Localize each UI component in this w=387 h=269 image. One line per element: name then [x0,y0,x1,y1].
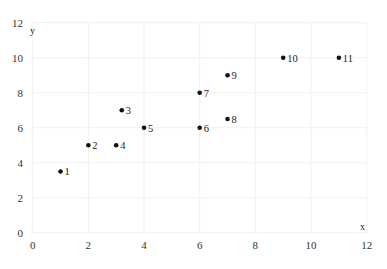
data-point: 1 [58,166,70,177]
x-tick-label: 6 [197,239,203,251]
x-tick-label: 4 [141,239,147,251]
y-axis-tick-labels: 024681012 [12,17,24,239]
x-tick-label: 2 [86,239,92,251]
data-point: 4 [114,140,126,151]
x-tick-label: 10 [306,239,318,251]
point-label: 2 [92,140,97,151]
y-tick-label: 12 [12,17,23,29]
point-marker [197,125,202,130]
x-tick-label: 0 [30,239,36,251]
point-marker [142,125,147,130]
point-marker [86,143,91,148]
data-point: 3 [119,105,131,116]
data-point: 5 [142,123,154,134]
point-marker [225,117,230,122]
y-tick-label: 8 [18,87,24,99]
y-tick-label: 6 [18,122,24,134]
point-label: 6 [204,123,209,134]
point-marker [337,55,342,60]
data-point: 7 [197,88,209,99]
data-point: 11 [337,53,353,64]
point-marker [114,143,119,148]
point-marker [119,108,124,113]
x-tick-label: 12 [361,239,372,251]
data-point: 6 [197,123,209,134]
data-point: 8 [225,114,237,125]
y-tick-label: 2 [18,192,24,204]
data-points: 1234567891011 [58,53,353,178]
point-label: 10 [287,53,298,64]
y-tick-label: 4 [18,157,24,169]
point-label: 1 [65,166,70,177]
point-label: 7 [204,88,209,99]
point-marker [281,55,286,60]
point-marker [197,90,202,95]
chart-canvas: 024681012 024681012 x y 1234567891011 [0,0,387,269]
point-marker [58,169,63,174]
x-axis-title: x [360,221,365,232]
point-label: 9 [232,70,237,81]
y-axis-title: y [30,25,35,36]
scatter-chart: 024681012 024681012 x y 1234567891011 [0,0,387,269]
x-tick-label: 8 [253,239,259,251]
point-label: 3 [126,105,131,116]
data-point: 10 [281,53,298,64]
point-label: 5 [148,123,153,134]
y-tick-label: 10 [12,52,24,64]
point-marker [225,73,230,78]
y-tick-label: 0 [18,227,24,239]
point-label: 8 [232,114,237,125]
point-label: 4 [120,140,126,151]
point-label: 11 [343,53,353,64]
x-axis-tick-labels: 024681012 [30,239,372,251]
data-point: 2 [86,140,98,151]
data-point: 9 [225,70,237,81]
